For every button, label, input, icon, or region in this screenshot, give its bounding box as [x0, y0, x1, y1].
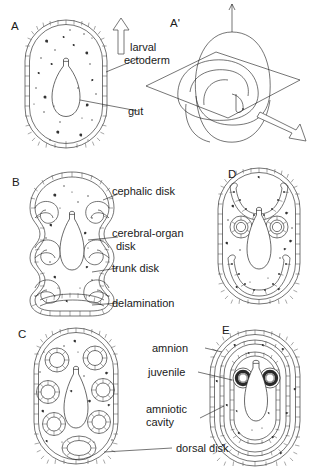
label-larval-ectoderm-line1: larval [130, 41, 156, 53]
label-cephalic-disk: cephalic disk [112, 185, 175, 197]
panel-e-letter: E [222, 324, 230, 336]
panel-a-prime-letter: A' [170, 17, 180, 29]
panel-b-gut [60, 211, 84, 270]
panel-d-gut [247, 207, 271, 269]
panel-b-letter: B [12, 176, 20, 188]
figure-canvas: A [0, 0, 316, 472]
disk-vesicle [83, 346, 107, 370]
label-amniotic-cavity-line2: cavity [146, 416, 175, 428]
apical-tuft [229, 4, 235, 32]
disk-vesicle [45, 348, 69, 372]
panel-a-letter: A [11, 20, 19, 32]
disk-vesicle-dorsal [62, 436, 96, 460]
label-cerebral-organ-disk-line1: cerebral-organ [112, 227, 184, 239]
label-gut: gut [128, 105, 143, 117]
panel-c: C [18, 328, 229, 464]
panel-b: B [12, 172, 184, 316]
label-amnion: amnion [152, 342, 188, 354]
panel-a: A [11, 18, 170, 148]
label-cerebral-organ-disk-line2: disk [116, 240, 136, 252]
label-larval-ectoderm-line2: ectoderm [124, 54, 170, 66]
leader-dorsal-disk [104, 448, 172, 452]
leader-amnion [205, 348, 222, 352]
disk-vesicle [88, 411, 111, 434]
developmental-series-diagram: A [0, 0, 316, 472]
leader-juvenile [198, 372, 232, 380]
label-juvenile: juvenile [147, 366, 185, 378]
larva-3d-lobes [178, 60, 258, 121]
panel-e: E [146, 324, 300, 466]
label-delamination: delamination [112, 297, 174, 309]
panel-a-prime: A' [146, 4, 306, 142]
up-arrow [113, 18, 129, 54]
disk-vesicle [43, 413, 66, 436]
label-trunk-disk: trunk disk [112, 262, 160, 274]
label-amniotic-cavity-line1: amniotic [146, 403, 187, 415]
panel-b-delamination [40, 293, 104, 306]
panel-c-letter: C [18, 328, 26, 340]
disk-vesicle [37, 381, 60, 404]
panel-d: D [218, 168, 300, 304]
disk-vesicle [92, 379, 115, 402]
down-right-arrow [257, 112, 306, 141]
panel-a-gut [52, 58, 80, 116]
